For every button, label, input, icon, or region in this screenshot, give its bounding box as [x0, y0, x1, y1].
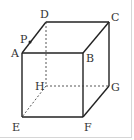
edge-fg [83, 86, 109, 117]
label-b: B [86, 52, 94, 65]
label-f: F [84, 121, 92, 134]
label-h: H [35, 80, 45, 93]
label-g: G [111, 81, 120, 94]
label-c: C [111, 11, 119, 24]
label-d: D [40, 8, 49, 21]
label-a: A [10, 47, 20, 60]
edge-bc [83, 22, 109, 53]
cube-diagram: D C P A B H G E F [0, 0, 134, 140]
label-p: P [20, 33, 28, 46]
point-p [29, 41, 32, 44]
visible-edges [22, 22, 109, 117]
label-e: E [12, 121, 20, 134]
